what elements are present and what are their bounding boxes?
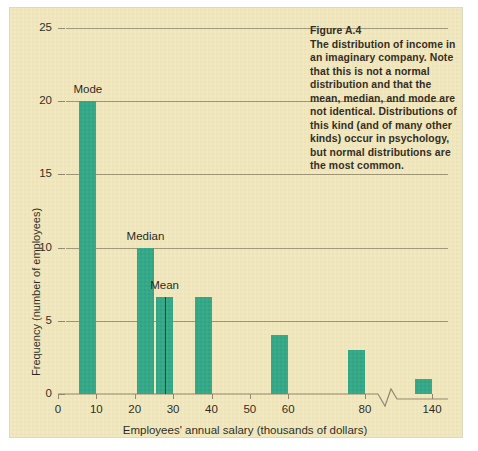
figure-panel: 0510152025010203040506080140ModeMedianMe…	[10, 8, 462, 437]
x-axis-tick-label: 40	[192, 404, 232, 416]
x-axis-label: Employees' annual salary (thousands of d…	[123, 424, 367, 436]
x-tick-mark	[365, 394, 366, 399]
y-axis-label: Frequency (number of employees)	[30, 208, 42, 376]
x-tick-mark	[288, 394, 289, 399]
x-tick-mark	[250, 394, 251, 399]
caption-body: The distribution of income in an imagina…	[310, 38, 462, 173]
x-axis-tick-label: 0	[38, 404, 78, 416]
x-axis-tick-label: 10	[76, 404, 116, 416]
x-axis-tick-label: 30	[153, 404, 193, 416]
x-tick-mark	[432, 394, 433, 399]
x-tick-mark	[135, 394, 136, 399]
bar	[271, 335, 288, 394]
bar	[415, 379, 432, 394]
mean-marker-line	[165, 297, 166, 394]
bar	[79, 101, 96, 394]
x-axis-tick-label: 80	[345, 404, 385, 416]
x-tick-mark	[96, 394, 97, 399]
chart-annotation-label: Mean	[150, 280, 179, 292]
x-axis-tick-label: 50	[230, 404, 270, 416]
x-tick-mark	[212, 394, 213, 399]
x-tick-mark	[58, 394, 59, 399]
x-tick-mark	[173, 394, 174, 399]
bar	[195, 297, 212, 394]
chart-annotation-label: Median	[127, 231, 165, 243]
figure-caption: Figure A.4 The distribution of income in…	[310, 24, 462, 173]
chart-annotation-label: Mode	[73, 84, 102, 96]
x-axis-tick-label: 140	[412, 404, 452, 416]
x-axis-tick-label: 20	[115, 404, 155, 416]
caption-title: Figure A.4	[310, 24, 462, 38]
bar	[137, 248, 154, 394]
x-axis-tick-label: 60	[268, 404, 308, 416]
bar	[348, 350, 365, 394]
